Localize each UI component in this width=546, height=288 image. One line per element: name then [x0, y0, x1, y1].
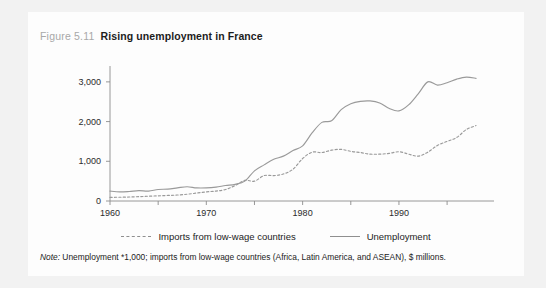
x-tick-label: 1970 [196, 208, 216, 218]
y-tick-label: 1,000 [78, 156, 101, 166]
series-line-imports [110, 126, 476, 198]
legend-label-imports: Imports from low-wage countries [158, 231, 295, 242]
note-text: Unemployment *1,000; imports from low-wa… [62, 252, 446, 262]
legend-swatch-dashed-icon [121, 236, 151, 237]
y-tick-label: 0 [96, 196, 101, 206]
y-tick-label: 2,000 [78, 117, 101, 127]
x-tick-label: 1980 [293, 208, 313, 218]
chart-legend: Imports from low-wage countries Unemploy… [28, 231, 524, 242]
line-chart: 01,0002,0003,0001960197019801990 [28, 56, 524, 231]
x-tick-label: 1990 [389, 208, 409, 218]
chart-plot-area: 01,0002,0003,0001960197019801990 [28, 56, 524, 231]
figure-number: Figure 5.11 [40, 30, 95, 42]
figure-note: Note: Unemployment *1,000; imports from … [40, 252, 516, 263]
legend-item-imports: Imports from low-wage countries [121, 231, 295, 242]
note-label: Note: [40, 252, 60, 262]
page-title: Rising unemployment in France [101, 30, 263, 42]
figure-panel: Figure 5.11Rising unemployment in France… [28, 12, 524, 276]
legend-item-unemployment: Unemployment [330, 231, 431, 242]
legend-swatch-solid-icon [330, 236, 360, 237]
x-tick-label: 1960 [100, 208, 120, 218]
figure-container: Figure 5.11Rising unemployment in France… [0, 0, 546, 288]
y-tick-label: 3,000 [78, 77, 101, 87]
series-line-unemployment [110, 77, 476, 192]
figure-title-row: Figure 5.11Rising unemployment in France [40, 26, 263, 44]
legend-label-unemployment: Unemployment [367, 231, 431, 242]
